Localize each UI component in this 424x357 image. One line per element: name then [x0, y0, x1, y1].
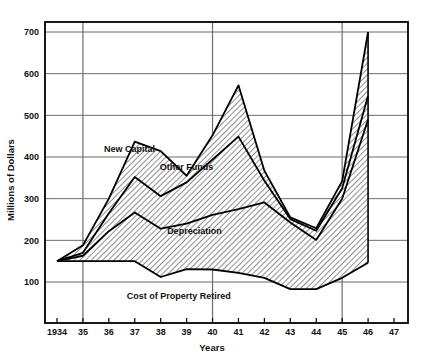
x-tick-label: 42 [259, 327, 269, 337]
x-tick-label: 41 [233, 327, 243, 337]
y-tick-label: 300 [24, 194, 39, 204]
x-axis-title: Years [199, 342, 224, 353]
other-funds-label: Other Funds [160, 162, 214, 172]
x-tick-label: 40 [208, 327, 218, 337]
x-tick-label: 38 [156, 327, 166, 337]
x-tick-label: 1934 [47, 327, 67, 337]
x-tick-label: 37 [130, 327, 140, 337]
cost-of-property-retired-label: Cost of Property Retired [127, 291, 231, 301]
y-tick-label: 400 [24, 152, 39, 162]
x-tick-label: 35 [78, 327, 88, 337]
x-tick-label: 44 [311, 327, 321, 337]
x-tick-label: 36 [104, 327, 114, 337]
y-axis-title: Millions of Dollars [5, 139, 16, 221]
x-tick-label: 39 [182, 327, 192, 337]
x-tick-label: 43 [285, 327, 295, 337]
new-capital-label: New Capital [104, 144, 155, 154]
chart-container: 100200300400500600700 193435363738394041… [0, 0, 424, 357]
x-tick-label: 47 [389, 327, 399, 337]
line-area-chart: 100200300400500600700 193435363738394041… [0, 0, 424, 357]
y-tick-label: 600 [24, 69, 39, 79]
depreciation-label: Depreciation [167, 226, 222, 236]
y-tick-label: 700 [24, 27, 39, 37]
y-tick-label: 100 [24, 277, 39, 287]
x-tick-label: 46 [363, 327, 373, 337]
x-tick-label: 45 [337, 327, 347, 337]
y-tick-label: 200 [24, 236, 39, 246]
y-tick-label: 500 [24, 111, 39, 121]
